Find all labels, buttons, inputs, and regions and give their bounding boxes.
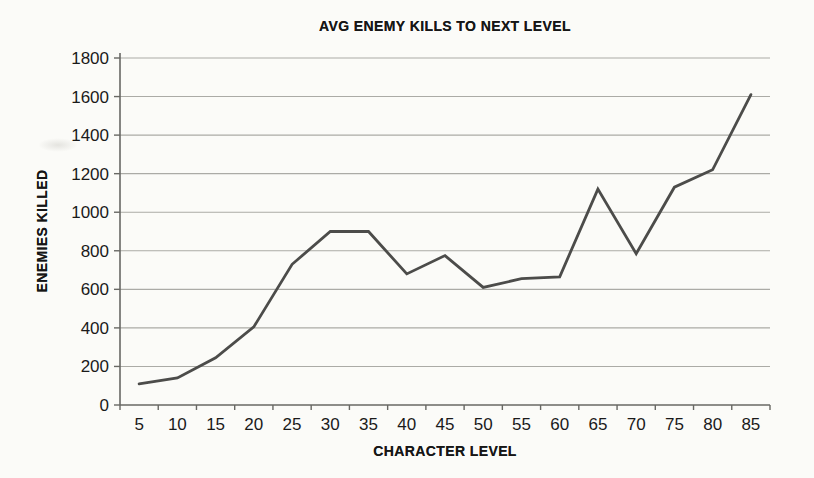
x-tick-label: 70 — [627, 415, 646, 434]
x-tick-label: 10 — [168, 415, 187, 434]
x-tick-label: 55 — [512, 415, 531, 434]
series-line — [139, 95, 751, 384]
x-tick-label: 40 — [397, 415, 416, 434]
x-tick-label: 65 — [588, 415, 607, 434]
x-tick-label: 80 — [703, 415, 722, 434]
line-chart: 0200400600800100012001400160018005101520… — [0, 0, 814, 478]
x-tick-label: 20 — [244, 415, 263, 434]
y-tick-label: 1600 — [71, 88, 109, 107]
x-tick-label: 30 — [321, 415, 340, 434]
y-tick-label: 600 — [81, 280, 109, 299]
y-tick-label: 200 — [81, 357, 109, 376]
y-tick-label: 1000 — [71, 203, 109, 222]
x-tick-label: 5 — [134, 415, 143, 434]
y-tick-label: 400 — [81, 319, 109, 338]
y-tick-label: 1400 — [71, 126, 109, 145]
x-tick-label: 35 — [359, 415, 378, 434]
x-tick-label: 15 — [206, 415, 225, 434]
x-tick-label: 45 — [436, 415, 455, 434]
x-tick-label: 50 — [474, 415, 493, 434]
x-tick-label: 85 — [741, 415, 760, 434]
x-tick-label: 75 — [665, 415, 684, 434]
y-tick-label: 0 — [100, 396, 109, 415]
x-tick-label: 25 — [283, 415, 302, 434]
y-tick-label: 1800 — [71, 49, 109, 68]
y-tick-label: 800 — [81, 242, 109, 261]
x-tick-label: 60 — [550, 415, 569, 434]
scanned-chart-page: AVG ENEMY KILLS TO NEXT LEVEL ENEMIES KI… — [0, 0, 814, 478]
y-tick-label: 1200 — [71, 165, 109, 184]
